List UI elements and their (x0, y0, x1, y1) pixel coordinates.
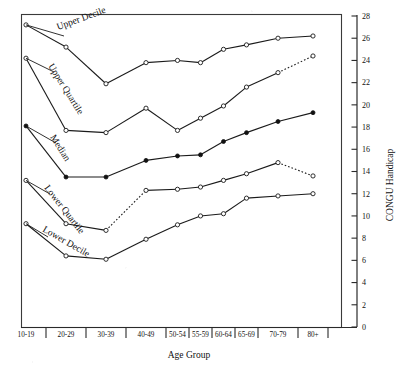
data-point (64, 175, 68, 179)
chart-container: 0246810121416182022242628 CONGU Handicap… (0, 0, 406, 377)
data-point (198, 214, 202, 218)
x-category-label-50-54: 50-54 (169, 331, 186, 339)
data-point (221, 104, 225, 108)
y-tick-label: 18 (362, 123, 370, 132)
data-point (198, 185, 202, 189)
data-point (104, 257, 108, 261)
y-tick-label: 16 (362, 145, 370, 154)
x-category-label-80+: 80+ (307, 331, 318, 339)
data-point (144, 188, 148, 192)
x-category-label-10-19: 10-19 (18, 331, 35, 339)
y-tick-label: 14 (362, 167, 370, 176)
data-point (311, 111, 315, 115)
data-point (175, 58, 179, 62)
y-tick-label: 22 (362, 78, 370, 87)
data-point (104, 175, 108, 179)
x-category-label-65-69: 65-69 (238, 331, 255, 339)
y-tick-label: 2 (362, 301, 366, 310)
data-point (221, 212, 225, 216)
data-point (144, 61, 148, 65)
y-tick-label: 28 (362, 12, 370, 21)
y-tick-label: 4 (362, 278, 366, 287)
y-tick-label: 0 (362, 323, 366, 332)
data-point (64, 254, 68, 258)
congu-handicap-line-chart: 0246810121416182022242628 CONGU Handicap… (0, 0, 406, 377)
data-point (276, 36, 280, 40)
data-point (144, 237, 148, 241)
data-point (24, 222, 28, 226)
data-point (276, 194, 280, 198)
data-point (104, 228, 108, 232)
data-point (175, 128, 179, 132)
data-point (276, 71, 280, 75)
y-tick-label: 10 (362, 212, 370, 221)
y-tick-label: 20 (362, 101, 370, 110)
data-point (175, 223, 179, 227)
data-point (311, 34, 315, 38)
data-point (245, 131, 249, 135)
y-tick-label: 24 (362, 56, 370, 65)
data-point (276, 120, 280, 124)
data-point (175, 187, 179, 191)
data-point (311, 174, 315, 178)
y-axis-title: CONGU Handicap (385, 148, 395, 221)
data-point (64, 222, 68, 226)
data-point (311, 54, 315, 58)
x-category-label-30-39: 30-39 (98, 331, 115, 339)
x-category-label-60-64: 60-64 (215, 331, 232, 339)
data-point (244, 196, 248, 200)
y-tick-label: 6 (362, 256, 366, 265)
data-point (244, 85, 248, 89)
y-tick-label: 12 (362, 190, 370, 199)
x-axis-title: Age Group (168, 350, 211, 360)
data-point (64, 128, 68, 132)
y-tick-label: 8 (362, 234, 366, 243)
data-point (64, 45, 68, 49)
x-category-label-70-79: 70-79 (270, 331, 287, 339)
data-point (176, 154, 180, 158)
data-point (221, 47, 225, 51)
y-tick-label: 26 (362, 34, 370, 43)
data-point (144, 106, 148, 110)
data-point (104, 82, 108, 86)
data-point (222, 140, 226, 144)
data-point (199, 153, 203, 157)
x-category-label-40-49: 40-49 (138, 331, 155, 339)
data-point (244, 43, 248, 47)
data-point (311, 192, 315, 196)
data-point (221, 178, 225, 182)
chart-background (0, 0, 406, 377)
data-point (244, 172, 248, 176)
x-category-label-55-59: 55-59 (192, 331, 209, 339)
data-point (276, 161, 280, 165)
data-point (198, 116, 202, 120)
data-point (198, 61, 202, 65)
data-point (144, 158, 148, 162)
x-category-label-20-29: 20-29 (58, 331, 75, 339)
data-point (104, 131, 108, 135)
